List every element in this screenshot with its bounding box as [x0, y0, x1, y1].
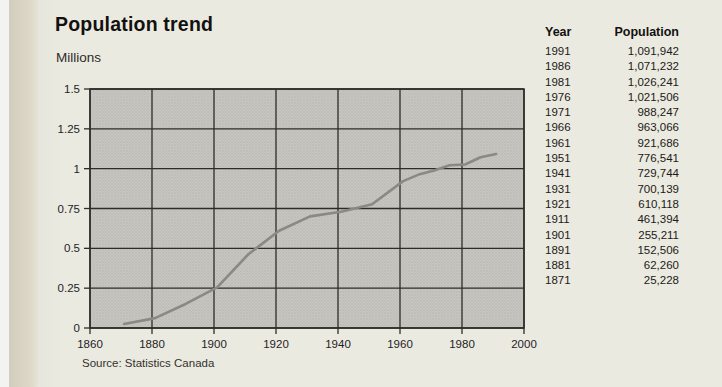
table-row: 1971988,247 [545, 105, 679, 120]
x-tick-label: 1960 [387, 338, 413, 350]
x-tick-label: 2000 [511, 338, 537, 350]
population-cell: 729,744 [591, 166, 679, 181]
table-row: 1961921,686 [545, 136, 679, 151]
table-row: 19911,091,942 [545, 44, 679, 59]
x-tick-label: 1980 [449, 338, 475, 350]
x-tick-label: 1900 [201, 338, 227, 350]
x-tick-label: 1880 [139, 338, 165, 350]
table-row: 1966963,066 [545, 120, 679, 135]
year-cell: 1951 [545, 151, 591, 166]
year-cell: 1871 [545, 273, 591, 288]
population-cell: 776,541 [591, 151, 679, 166]
year-cell: 1911 [545, 212, 591, 227]
y-tick-label: 0.75 [58, 203, 80, 215]
y-tick-label: 1.25 [58, 123, 80, 135]
population-cell: 255,211 [591, 228, 679, 243]
year-cell: 1881 [545, 258, 591, 273]
population-cell: 1,071,232 [591, 59, 679, 74]
table-row: 1941729,744 [545, 166, 679, 181]
source-note: Source: Statistics Canada [82, 357, 214, 369]
population-cell: 921,686 [591, 136, 679, 151]
x-tick-label: 1940 [325, 338, 351, 350]
table-row: 1901255,211 [545, 228, 679, 243]
year-column-header: Year [545, 25, 591, 44]
population-cell: 62,260 [591, 258, 679, 273]
year-cell: 1901 [545, 228, 591, 243]
y-tick-label: 1 [74, 163, 80, 175]
year-cell: 1891 [545, 243, 591, 258]
population-cell: 700,139 [591, 182, 679, 197]
population-table: Year Population 19911,091,94219861,071,2… [545, 25, 679, 289]
population-cell: 988,247 [591, 105, 679, 120]
population-cell: 461,394 [591, 212, 679, 227]
population-cell: 963,066 [591, 120, 679, 135]
y-tick-label: 0.5 [64, 242, 80, 254]
y-tick-label: 0.25 [58, 282, 80, 294]
year-cell: 1986 [545, 59, 591, 74]
year-cell: 1991 [545, 44, 591, 59]
table-row: 188162,260 [545, 258, 679, 273]
population-cell: 152,506 [591, 243, 679, 258]
year-cell: 1981 [545, 75, 591, 90]
y-tick-label: 1.5 [64, 83, 80, 95]
table-row: 1951776,541 [545, 151, 679, 166]
year-cell: 1921 [545, 197, 591, 212]
population-cell: 1,021,506 [591, 90, 679, 105]
population-column-header: Population [591, 25, 679, 44]
table-row: 1891152,506 [545, 243, 679, 258]
table-row: 19861,071,232 [545, 59, 679, 74]
population-cell: 25,228 [591, 273, 679, 288]
x-tick-label: 1920 [263, 338, 289, 350]
table-row: 1931700,139 [545, 182, 679, 197]
year-cell: 1976 [545, 90, 591, 105]
table-header-row: Year Population [545, 25, 679, 44]
table-row: 19761,021,506 [545, 90, 679, 105]
x-tick-label: 1860 [77, 338, 103, 350]
year-cell: 1941 [545, 166, 591, 181]
year-cell: 1931 [545, 182, 591, 197]
year-cell: 1971 [545, 105, 591, 120]
table-row: 1911461,394 [545, 212, 679, 227]
population-cell: 1,026,241 [591, 75, 679, 90]
population-cell: 1,091,942 [591, 44, 679, 59]
y-tick-label: 0 [74, 322, 80, 334]
table-row: 19811,026,241 [545, 75, 679, 90]
year-cell: 1966 [545, 120, 591, 135]
table-row: 1921610,118 [545, 197, 679, 212]
population-cell: 610,118 [591, 197, 679, 212]
table-row: 187125,228 [545, 273, 679, 288]
year-cell: 1961 [545, 136, 591, 151]
